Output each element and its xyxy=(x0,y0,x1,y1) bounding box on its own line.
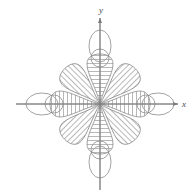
polar-rose-figure: y x xyxy=(0,0,195,196)
axis-overlay-group xyxy=(16,18,178,190)
y-axis-label: y xyxy=(98,5,103,15)
plot-canvas: y x xyxy=(0,0,195,196)
x-axis-label: x xyxy=(181,99,186,109)
